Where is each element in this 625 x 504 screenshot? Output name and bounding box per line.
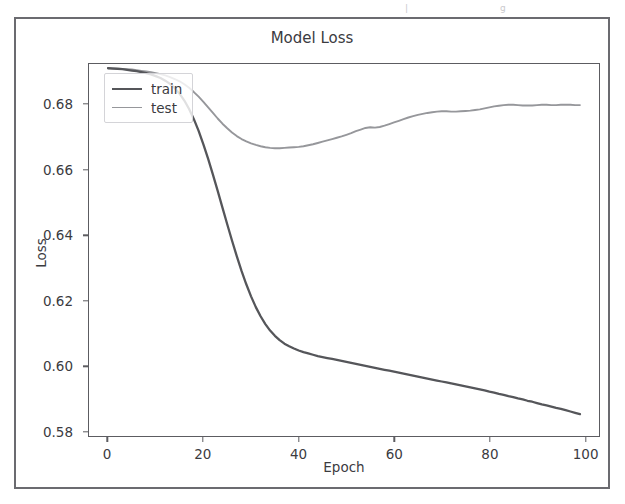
legend-swatch-test [112, 107, 142, 108]
x-tick-mark [202, 437, 203, 442]
scan-artifact-fragment-right: g [500, 3, 508, 13]
legend-item-test[interactable]: test [112, 98, 182, 117]
legend-swatch-train [112, 88, 142, 90]
x-tick-mark [298, 437, 299, 442]
legend-label-test: test [151, 100, 177, 116]
scan-artifact-fragment-left: | [405, 3, 410, 13]
figure-frame: Model Loss Loss Epoch 0.580.600.620.640.… [14, 17, 610, 489]
scan-artifact-strip: | g [0, 0, 625, 13]
x-tick-label: 80 [481, 446, 498, 462]
chart-legend[interactable]: train test [104, 73, 193, 123]
figure-inner: Model Loss Loss Epoch 0.580.600.620.640.… [16, 19, 608, 487]
x-tick-mark [394, 437, 395, 442]
x-tick-mark [106, 437, 107, 442]
x-tick-label: 100 [573, 446, 599, 462]
legend-item-train[interactable]: train [112, 79, 182, 98]
x-tick-label: 40 [290, 446, 307, 462]
x-tick-mark [489, 437, 490, 442]
x-tick-mark [585, 437, 586, 442]
legend-label-train: train [151, 81, 182, 97]
x-tick-label: 20 [194, 446, 211, 462]
x-tick-label: 60 [386, 446, 403, 462]
x-tick-label: 0 [103, 446, 112, 462]
